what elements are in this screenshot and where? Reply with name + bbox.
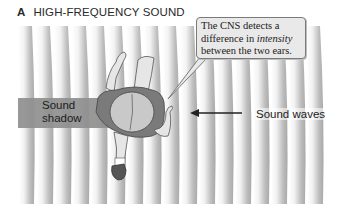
shoe-icon <box>112 164 126 180</box>
sound-shadow-label-line1: Sound <box>42 99 82 112</box>
sound-shadow-label-line2: shadow <box>42 112 82 125</box>
callout-line-2-prefix: difference in <box>201 33 257 44</box>
callout-line-3: between the two ears. <box>201 45 301 58</box>
callout-line-2-emphasis: intensity <box>257 33 293 44</box>
panel-title: AHIGH-FREQUENCY SOUND <box>17 6 185 18</box>
left-arrow-icon <box>190 108 242 118</box>
left-arm-icon <box>106 52 126 92</box>
sound-shadow-label: Sound shadow <box>42 99 82 125</box>
callout-line-1: The CNS detects a <box>201 20 301 33</box>
panel-title-text: HIGH-FREQUENCY SOUND <box>33 6 184 18</box>
callout-pointer <box>160 55 220 105</box>
head-icon <box>110 92 154 132</box>
cns-callout-box: The CNS detects a difference in intensit… <box>196 17 306 59</box>
callout-line-2: difference in intensity <box>201 33 301 46</box>
panel-letter: A <box>17 6 25 18</box>
sound-waves-label: Sound waves <box>256 108 325 120</box>
